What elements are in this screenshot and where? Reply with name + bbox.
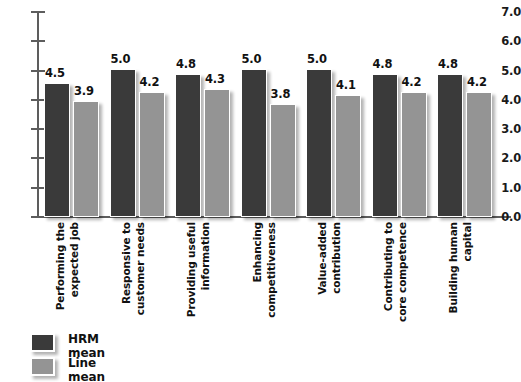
- bar-value-label: 4.5: [45, 66, 65, 80]
- category-label-line: Value-added: [316, 222, 328, 295]
- bar-group: 4.84.3: [175, 12, 231, 217]
- category-label-line: information: [199, 222, 211, 290]
- bar-value-label: 5.0: [307, 52, 327, 66]
- bar-group: 5.04.1: [306, 12, 362, 217]
- bar-value-label: 4.1: [336, 78, 356, 92]
- category-label-line: contribution: [330, 222, 342, 294]
- category-label-line: customer needs: [134, 222, 146, 315]
- bar-line: [139, 92, 165, 217]
- category-label: Responsive tocustomer needs: [110, 222, 166, 318]
- bar-value-label: 4.2: [140, 75, 160, 89]
- bar-line: [335, 95, 361, 217]
- plot-area: 4.53.95.04.24.84.35.03.85.04.14.84.24.84…: [39, 12, 511, 217]
- bar-line: [73, 101, 99, 217]
- bar-line: [466, 92, 492, 217]
- bar-hrm: [44, 83, 70, 217]
- category-label: Enhancingcompetitiveness: [241, 222, 297, 318]
- legend-swatch: [30, 357, 55, 376]
- category-label-line: competitiveness: [265, 222, 277, 318]
- category-label-line: expected job: [68, 222, 80, 297]
- category-label-line: Providing useful: [185, 222, 197, 317]
- bar-group: 4.53.9: [44, 12, 100, 217]
- bar-value-label: 3.9: [74, 84, 94, 98]
- bar-line: [204, 89, 230, 217]
- bar-value-label: 4.2: [402, 75, 422, 89]
- category-label-line: Contributing to: [382, 222, 394, 311]
- category-label-line: capital: [461, 222, 473, 261]
- bar-value-label: 4.8: [373, 57, 393, 71]
- bar-group: 4.84.2: [372, 12, 428, 217]
- category-label-line: Building human: [447, 222, 459, 314]
- bar-hrm: [241, 69, 267, 217]
- category-label-line: core competence: [396, 222, 408, 322]
- bar-value-label: 4.8: [438, 57, 458, 71]
- category-label: Providing usefulinformation: [175, 222, 231, 318]
- bar-value-label: 4.2: [467, 75, 487, 89]
- x-axis-category-labels: Performing theexpected jobResponsive toc…: [39, 222, 511, 322]
- category-label: Building humancapital: [437, 222, 493, 318]
- category-label: Performing theexpected job: [44, 222, 100, 318]
- grouped-bar-chart: 7.06.05.04.03.02.01.00.0 4.53.95.04.24.8…: [0, 0, 521, 382]
- bar-hrm: [110, 69, 136, 217]
- bar-value-label: 4.8: [176, 57, 196, 71]
- bar-group: 5.04.2: [110, 12, 166, 217]
- bar-hrm: [175, 74, 201, 217]
- bar-group: 5.03.8: [241, 12, 297, 217]
- category-label: Contributing tocore competence: [372, 222, 428, 318]
- bar-hrm: [306, 69, 332, 217]
- bar-value-label: 4.3: [205, 72, 225, 86]
- bar-group: 4.84.2: [437, 12, 493, 217]
- category-label: Value-addedcontribution: [306, 222, 362, 318]
- category-label-line: Performing the: [54, 222, 66, 310]
- bar-hrm: [437, 74, 463, 217]
- bar-line: [401, 92, 427, 217]
- bar-value-label: 5.0: [242, 52, 262, 66]
- bar-value-label: 5.0: [111, 52, 131, 66]
- bar-line: [270, 104, 296, 217]
- bar-hrm: [372, 74, 398, 217]
- bar-value-label: 3.8: [271, 87, 291, 101]
- legend-label: Line mean: [68, 356, 105, 382]
- category-label-line: Enhancing: [251, 222, 263, 283]
- category-label-line: Responsive to: [120, 222, 132, 304]
- legend-swatch: [30, 333, 55, 352]
